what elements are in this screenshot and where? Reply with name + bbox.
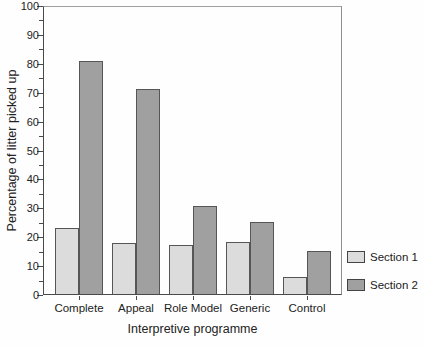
y-axis-minor-tick	[39, 136, 43, 137]
legend-entry-section-2: Section 2	[347, 278, 418, 292]
legend-entry-section-1: Section 1	[347, 250, 418, 264]
y-tick-label: 40	[12, 173, 39, 185]
x-axis-tick	[193, 296, 194, 300]
y-axis-minor-tick	[39, 281, 43, 282]
y-axis-minor-tick	[39, 252, 43, 253]
bar-section-2-role-model	[193, 206, 217, 294]
category-label-control: Control	[262, 302, 352, 314]
y-tick-label: 80	[12, 58, 39, 70]
y-tick-label: 10	[12, 260, 39, 272]
bar-chart-figure: Percentage of litter picked up Interpret…	[0, 0, 424, 346]
bar-section-2-generic	[250, 222, 274, 294]
y-tick-label: 60	[12, 116, 39, 128]
y-tick-label: 70	[12, 87, 39, 99]
y-axis-minor-tick	[39, 165, 43, 166]
bar-section-1-appeal	[112, 243, 136, 294]
y-axis-minor-tick	[39, 223, 43, 224]
x-axis-tick	[250, 296, 251, 300]
bar-section-2-appeal	[136, 89, 160, 294]
y-axis-minor-tick	[39, 194, 43, 195]
y-tick-label: 0	[12, 289, 39, 301]
y-axis-minor-tick	[39, 49, 43, 50]
bar-section-2-control	[307, 251, 331, 294]
legend-swatch-section-1	[347, 251, 365, 263]
y-tick-label: 100	[12, 0, 39, 12]
y-axis-minor-tick	[39, 20, 43, 21]
y-axis-minor-tick	[39, 78, 43, 79]
legend-label: Section 2	[370, 279, 418, 291]
legend-swatch-section-2	[347, 279, 365, 291]
bar-section-1-control	[283, 277, 307, 294]
y-tick-label: 90	[12, 29, 39, 41]
x-axis-tick	[79, 296, 80, 300]
x-axis-tick	[136, 296, 137, 300]
bar-section-1-complete	[55, 228, 79, 294]
y-tick-label: 30	[12, 202, 39, 214]
bar-section-2-complete	[79, 61, 103, 294]
legend-label: Section 1	[370, 251, 418, 263]
plot-area	[43, 6, 342, 295]
bar-section-1-role-model	[169, 245, 193, 294]
x-axis-tick	[307, 296, 308, 300]
y-tick-label: 50	[12, 145, 39, 157]
y-tick-label: 20	[12, 231, 39, 243]
x-axis-title: Interpretive programme	[43, 322, 342, 336]
bar-section-1-generic	[226, 242, 250, 294]
y-axis-minor-tick	[39, 107, 43, 108]
legend: Section 1Section 2	[347, 248, 423, 296]
